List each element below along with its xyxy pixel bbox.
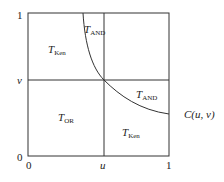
- y-tick-1: 1: [17, 10, 23, 21]
- region-label-bottom-left: TOR: [58, 112, 74, 125]
- y-tick-v: v: [17, 75, 22, 86]
- region-label-top-curve: TAND: [84, 24, 105, 37]
- diagram-canvas: [0, 0, 224, 182]
- region-label-right-curve: TAND: [136, 89, 157, 102]
- region-label-bottom-right: TKen: [122, 127, 140, 140]
- x-tick-u: u: [100, 160, 106, 171]
- region-label-top-left: TKen: [48, 44, 66, 57]
- curve-label: C(u, v): [184, 109, 215, 120]
- x-tick-0: 0: [26, 160, 32, 171]
- x-tick-1: 1: [166, 160, 172, 171]
- y-tick-0: 0: [17, 152, 23, 163]
